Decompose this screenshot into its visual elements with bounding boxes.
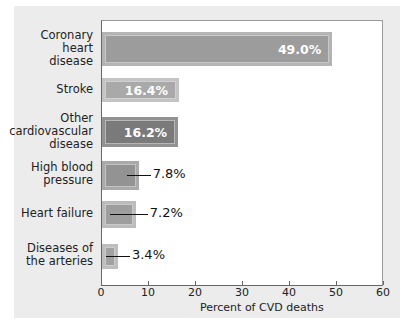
x-tick-label: 50 xyxy=(329,286,343,299)
bar-value-label: 16.4% xyxy=(125,83,168,98)
x-tick-label: 40 xyxy=(282,286,296,299)
x-tick xyxy=(289,281,290,285)
category-label: High bloodpressure xyxy=(0,161,93,187)
bar-value-label: 7.8% xyxy=(153,166,186,181)
plot-area: 49.0%16.4%16.2%7.8%7.2%3.4% xyxy=(101,20,383,286)
bar-value-label: 7.2% xyxy=(150,205,183,220)
x-tick xyxy=(383,281,384,285)
bar: 49.0% xyxy=(102,32,332,66)
category-label: Stroke xyxy=(0,83,93,96)
x-tick xyxy=(336,281,337,285)
leader-line xyxy=(127,175,151,176)
bar: 16.4% xyxy=(102,78,179,102)
x-tick-label: 60 xyxy=(376,286,390,299)
x-tick xyxy=(242,281,243,285)
bar-value-label: 3.4% xyxy=(132,247,165,262)
x-tick-label: 0 xyxy=(98,286,105,299)
x-tick-label: 10 xyxy=(141,286,155,299)
x-tick xyxy=(195,281,196,285)
x-tick xyxy=(101,281,102,285)
bar: 16.2% xyxy=(102,117,178,147)
x-tick-label: 30 xyxy=(235,286,249,299)
bar-value-label: 49.0% xyxy=(278,42,321,57)
x-axis-label: Percent of CVD deaths xyxy=(200,301,324,314)
leader-line xyxy=(110,214,148,215)
category-label: Othercardiovasculardisease xyxy=(0,112,93,151)
x-tick xyxy=(148,281,149,285)
bar-value-label: 16.2% xyxy=(124,125,167,140)
category-label: Diseases ofthe arteries xyxy=(0,242,93,268)
x-tick-label: 20 xyxy=(188,286,202,299)
category-label: Heart failure xyxy=(0,207,93,220)
category-label: Coronaryheartdisease xyxy=(0,29,93,68)
leader-line xyxy=(106,256,130,257)
